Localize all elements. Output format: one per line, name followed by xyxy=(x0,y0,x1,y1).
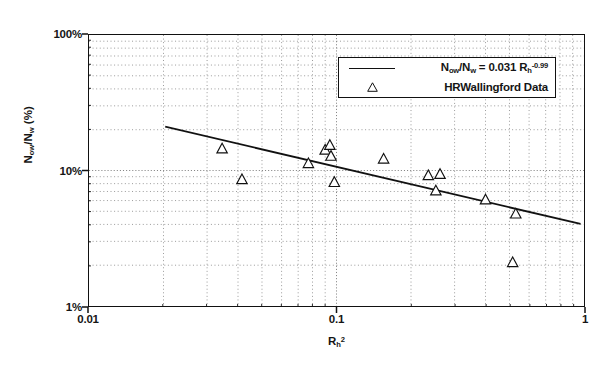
figure-root: 100% 10% 1% Now/Nw (%) 0.01 0.1 1 Rh2 No… xyxy=(0,0,599,371)
legend-row-fit: Now/Nw = 0.031 Rh-0.99 xyxy=(339,60,555,78)
y-axis-title-units: (%) xyxy=(22,106,34,127)
eq-exponent: -0.99 xyxy=(532,61,548,70)
legend: Now/Nw = 0.031 Rh-0.99 HRWallingford Dat… xyxy=(338,57,556,98)
y-axis-title-base-2: /N xyxy=(22,133,34,145)
triangle-up-icon xyxy=(367,82,378,92)
legend-label-data: HRWallingford Data xyxy=(405,81,555,93)
eq-coefficient: 0.031 xyxy=(488,62,519,74)
y-tick-label-100: 100% xyxy=(36,28,82,40)
x-axis-title-base: R xyxy=(328,335,336,347)
fit-line-swatch xyxy=(349,68,395,69)
eq-lhs-base-1: N xyxy=(441,62,449,74)
x-axis-title: Rh2 xyxy=(0,335,599,349)
y-axis-title-sub-2: w xyxy=(27,127,36,133)
legend-key-line xyxy=(339,60,405,78)
eq-lhs-base-2: /N xyxy=(459,62,470,74)
y-tick-label-10: 10% xyxy=(36,165,82,177)
y-axis-title-base-1: N xyxy=(22,155,34,163)
legend-label-equation: Now/Nw = 0.031 Rh-0.99 xyxy=(405,61,555,75)
x-tick-label-01: 0.1 xyxy=(329,313,344,325)
y-tick-label-1: 1% xyxy=(36,301,82,313)
eq-equals: = xyxy=(476,62,489,74)
x-axis-title-sup: 2 xyxy=(341,335,345,344)
x-tick-label-001: 0.01 xyxy=(77,313,99,325)
x-tick-label-1: 1 xyxy=(582,313,588,325)
eq-lhs-sub-1: ow xyxy=(449,67,459,76)
x-axis-tick-labels: 0.01 0.1 1 xyxy=(0,313,599,333)
y-axis-title: Now/Nw (%) xyxy=(22,60,36,210)
legend-key-marker xyxy=(339,78,405,96)
y-axis-title-sub-1: ow xyxy=(27,145,36,156)
legend-row-data: HRWallingford Data xyxy=(339,78,555,96)
